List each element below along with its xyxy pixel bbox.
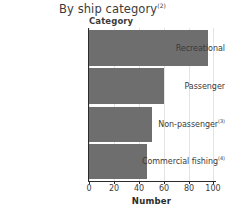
x-tick-label-60: 60 bbox=[153, 184, 175, 193]
x-tick-label-0: 0 bbox=[78, 184, 100, 193]
x-tick-label-20: 20 bbox=[103, 184, 125, 193]
category-label-text: Non-passenger bbox=[158, 120, 218, 129]
x-tick-label-80: 80 bbox=[178, 184, 200, 193]
category-label-passenger: Passenger bbox=[139, 82, 225, 91]
chart-title: By ship category(2) bbox=[0, 2, 225, 16]
category-label-superscript: (3) bbox=[218, 118, 225, 124]
chart-title-text: By ship category bbox=[59, 2, 157, 16]
category-label-non-passenger: Non-passenger(3) bbox=[139, 120, 225, 129]
bar-chart: By ship category(2) Category Recreationa… bbox=[0, 0, 225, 211]
chart-title-superscript: (2) bbox=[157, 2, 166, 9]
category-label-text: Recreational bbox=[176, 44, 225, 53]
x-tick-label-40: 40 bbox=[128, 184, 150, 193]
y-axis-label: Category bbox=[89, 16, 133, 26]
category-label-text: Passenger bbox=[184, 82, 225, 91]
category-label-recreational: Recreational bbox=[139, 44, 225, 53]
category-label-superscript: (4) bbox=[218, 155, 225, 161]
x-axis-label: Number bbox=[89, 196, 214, 206]
bar-commercial-fishing bbox=[89, 144, 147, 179]
x-tick-label-100: 100 bbox=[202, 184, 224, 193]
x-axis-line bbox=[88, 181, 216, 182]
y-axis-line bbox=[88, 28, 89, 181]
category-label-commercial-fishing: Commercial fishing(4) bbox=[139, 157, 225, 166]
category-label-text: Commercial fishing bbox=[142, 157, 218, 166]
